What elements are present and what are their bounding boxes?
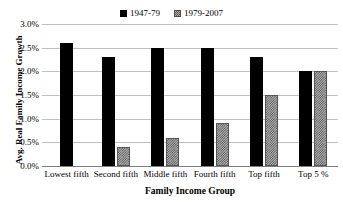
bar-group [239,24,288,166]
bar-chart: 1947-79 1979-2007 Avg. Real Family Incom… [0,0,343,202]
bar[interactable] [166,138,179,166]
bar-group [91,24,140,166]
gridline [42,166,338,167]
bar[interactable] [216,123,229,166]
legend-swatch-solid-icon [120,10,127,17]
bar-group [141,24,190,166]
bar[interactable] [117,147,130,166]
x-axis-tick-label: Top fifth [239,169,288,183]
bar[interactable] [299,71,312,166]
bar[interactable] [314,71,327,166]
legend-label-series-2: 1979-2007 [184,9,223,18]
x-axis-tick-labels: Lowest fifthSecond fifthMiddle fifthFour… [42,169,338,183]
y-axis-tick-label: 0.5% [20,137,39,147]
y-axis-tick-label: 2.0% [20,66,39,76]
y-axis-tick-label: 1.5% [20,90,39,100]
legend-entry-series-1: 1947-79 [120,9,160,18]
chart-legend: 1947-79 1979-2007 [0,7,343,19]
x-axis-tick-label: Middle fifth [141,169,190,183]
bar-group [289,24,338,166]
y-axis-tick-label: 3.0% [20,19,39,29]
legend-entry-series-2: 1979-2007 [174,9,223,18]
bar[interactable] [151,48,164,166]
y-axis-tick-label: 0.0% [20,161,39,171]
y-axis-tick-label: 1.0% [20,114,39,124]
x-axis-tick-label: Lowest fifth [42,169,91,183]
bar[interactable] [265,95,278,166]
y-axis-tick-label: 2.5% [20,43,39,53]
plot-area: 0.0%0.5%1.0%1.5%2.0%2.5%3.0% [42,24,338,166]
bar[interactable] [250,57,263,166]
x-axis-tick-label: Second fifth [91,169,140,183]
x-axis-tick-label: Top 5 % [289,169,338,183]
bar-group [190,24,239,166]
bar[interactable] [201,48,214,166]
x-axis-tick-label: Fourth fifth [190,169,239,183]
bar-group [42,24,91,166]
bar[interactable] [60,43,73,166]
bar[interactable] [102,57,115,166]
legend-swatch-hatched-icon [174,10,181,17]
bar-groups [42,24,338,166]
legend-label-series-1: 1947-79 [130,9,160,18]
x-axis-title: Family Income Group [42,186,338,196]
